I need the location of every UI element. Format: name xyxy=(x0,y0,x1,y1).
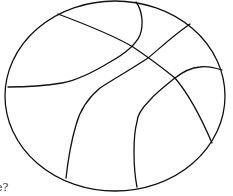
seam-right-to-bottom xyxy=(134,67,222,187)
seam-diagonal xyxy=(58,14,212,143)
basketball-drawing xyxy=(0,0,233,196)
basketball-outline xyxy=(5,1,225,191)
caption-text-fragment: e? xyxy=(0,181,8,195)
seam-upper-right-to-bottom xyxy=(66,24,190,178)
